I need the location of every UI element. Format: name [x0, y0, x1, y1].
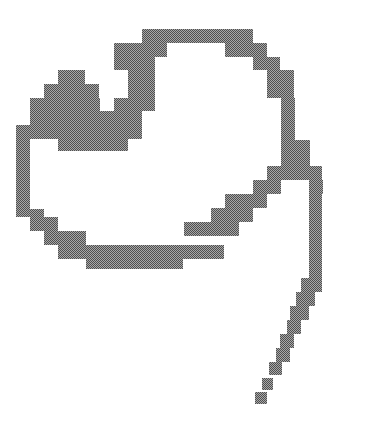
spiral-glyph: [0, 0, 371, 431]
glyph-blocks: [16, 29, 323, 404]
